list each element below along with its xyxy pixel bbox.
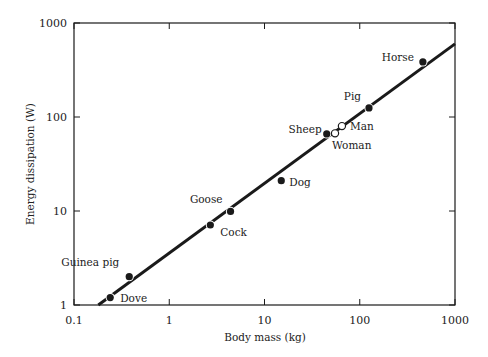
point-label: Dove xyxy=(120,292,147,304)
x-tick-label: 0.1 xyxy=(65,314,83,327)
scatter-chart: 0.11101001000 1101001000 DoveGuinea pigC… xyxy=(0,0,488,357)
y-tick-label: 10 xyxy=(53,205,67,218)
data-point-goose: Goose xyxy=(190,193,235,216)
point-label: Guinea pig xyxy=(61,256,119,268)
point-label: Woman xyxy=(332,139,372,151)
x-tick-label: 1 xyxy=(166,314,173,327)
point-label: Pig xyxy=(344,90,361,102)
x-axis-label: Body mass (kg) xyxy=(224,331,306,343)
x-axis: 0.11101001000 xyxy=(65,23,469,327)
regression-line xyxy=(98,44,455,305)
filled-circle-marker xyxy=(107,294,114,301)
point-label: Sheep xyxy=(289,123,322,135)
plot-border xyxy=(74,23,455,305)
y-tick-label: 100 xyxy=(46,111,67,124)
y-axis-label: Energy dissipation (W) xyxy=(24,103,36,225)
y-tick-label: 1 xyxy=(60,299,67,312)
filled-circle-marker xyxy=(207,221,214,228)
x-tick-label: 10 xyxy=(258,314,272,327)
data-points: DoveGuinea pigCockGooseDogSheepWomanManP… xyxy=(61,51,427,304)
filled-circle-marker xyxy=(365,104,372,111)
data-point-dove: Dove xyxy=(106,292,147,304)
open-circle-marker xyxy=(338,123,345,130)
data-point-pig: Pig xyxy=(344,90,374,113)
point-label: Man xyxy=(350,120,374,132)
filled-circle-marker xyxy=(126,273,133,280)
open-circle-marker xyxy=(331,130,338,137)
x-tick-label: 1000 xyxy=(441,314,469,327)
point-label: Dog xyxy=(289,176,311,188)
point-label: Goose xyxy=(190,193,223,205)
data-point-guinea-pig: Guinea pig xyxy=(61,256,133,282)
filled-circle-marker xyxy=(278,177,285,184)
data-point-sheep: Sheep xyxy=(289,123,332,139)
filled-circle-marker xyxy=(419,58,426,65)
fit-line xyxy=(98,44,455,305)
y-tick-label: 1000 xyxy=(39,17,67,30)
data-point-man: Man xyxy=(338,120,374,132)
plot-frame xyxy=(74,23,455,305)
x-tick-label: 100 xyxy=(349,314,370,327)
point-label: Cock xyxy=(220,226,247,238)
point-label: Horse xyxy=(382,51,414,63)
filled-circle-marker xyxy=(227,208,234,215)
data-point-dog: Dog xyxy=(277,176,311,188)
data-point-horse: Horse xyxy=(382,51,428,67)
data-point-cock: Cock xyxy=(206,220,248,238)
data-point-woman: Woman xyxy=(331,130,371,152)
filled-circle-marker xyxy=(323,130,330,137)
